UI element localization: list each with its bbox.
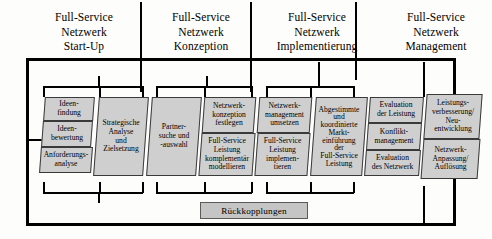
box-line: findung (57, 109, 81, 118)
top-rail-drop-1b (99, 86, 101, 97)
phase-heading-line: Full-Service (28, 10, 140, 25)
phase-heading-line: Netzwerk (146, 25, 256, 40)
diagram-root: Full-Service Netzwerk Start-Up Full-Serv… (0, 0, 492, 239)
process-box-leistung-modellieren[interactable]: Full-Service Leistung komplementär model… (198, 133, 255, 176)
bottom-rail-group-1 (43, 192, 143, 194)
phase-heading-management: Full-Service Netzwerk Management (382, 10, 490, 54)
phase-heading-line: Full-Service (256, 10, 378, 25)
top-rail-drop-3a (266, 86, 268, 97)
box-line: umsetzen (270, 119, 299, 128)
phase-heading-line: Konzeption (146, 39, 256, 54)
process-box-evaluation-netzwerk[interactable]: Evaluation des Netzwerk (364, 150, 421, 176)
box-line: Zielsetzung (103, 145, 138, 154)
phase-heading-line: Full-Service (146, 10, 256, 25)
process-box-anforderungsanalyse[interactable]: Anforderungs- analyse (39, 147, 93, 173)
bottom-rail-rise-1c (142, 182, 144, 193)
phase-heading-line: Netzwerk (382, 25, 490, 40)
bottom-rail-rise-3b (310, 182, 312, 193)
top-rail-drop-3c (353, 86, 355, 97)
process-box-konzeption-festlegen[interactable]: Netzwerk- konzeption festlegen (202, 97, 257, 133)
box-line: -auswahl (160, 141, 187, 150)
frame-top-border (26, 58, 456, 61)
process-box-leistung-implementieren[interactable]: Full-Service Leistung implemen- tieren (254, 133, 310, 176)
box-line: des Netzwerk (372, 163, 414, 172)
phase-heading-line: Netzwerk (28, 25, 140, 40)
phase-separator-2 (250, 2, 252, 92)
top-rail-group-1 (43, 86, 143, 88)
process-box-verbesserung-neuentwicklung[interactable]: Leistungs- verbesserung/ Neu- entwicklun… (423, 94, 482, 139)
top-rail-drop-2b (204, 86, 206, 97)
phase-heading-line: Management (382, 39, 490, 54)
bottom-rail-rise-1a (43, 182, 45, 193)
phase-separator-3 (355, 2, 357, 80)
phase-heading-line: Implementierung (256, 39, 378, 54)
top-rail-drop-3b (310, 86, 312, 97)
top-rail-drop-2c (251, 86, 253, 97)
process-box-strategische-analyse[interactable]: Strategische Analyse und Zielsetzung (93, 97, 149, 176)
phase-heading-line: Start-Up (28, 39, 140, 54)
box-line: Leistung (326, 160, 353, 168)
feedback-bar[interactable]: Rückkopplungen (200, 202, 308, 219)
box-line: der Leistung (377, 110, 415, 119)
top-rail-drop-1a (43, 86, 45, 97)
phase-heading-implementierung: Full-Service Netzwerk Implementierung (256, 10, 378, 54)
phase-heading-line: Full-Service (382, 10, 490, 25)
process-box-konfliktmanagement[interactable]: Konflikt- management (366, 123, 422, 150)
box-line: Auflösung (434, 163, 466, 172)
process-box-ideenfindung[interactable]: Ideen- findung (43, 97, 95, 121)
box-line: tieren (274, 163, 291, 172)
bottom-rail-rise-3c (353, 182, 355, 193)
phase-heading-start-up: Full-Service Netzwerk Start-Up (28, 10, 140, 54)
box-line: modellieren (209, 163, 245, 172)
phase-heading-konzeption: Full-Service Netzwerk Konzeption (146, 10, 256, 54)
feedback-label: Rückkopplungen (221, 206, 287, 216)
process-box-abgestimmte-markteinfuehrung[interactable]: Abgestimmte und koordinierte Markt- einf… (310, 97, 368, 176)
frame-bottom-border (26, 223, 456, 226)
box-line: entwicklung (434, 125, 472, 134)
top-stem-1 (98, 76, 100, 87)
box-line: festlegen (215, 119, 242, 128)
process-box-partnersuche[interactable]: Partner- suche und -auswahl (146, 97, 202, 176)
bottom-rail-rise-2c (251, 182, 253, 193)
process-box-anpassung-aufloesung[interactable]: Netzwerk- Anpassung/ Auflösung (421, 139, 481, 179)
process-box-evaluation-leistung[interactable]: Evaluation der Leistung (368, 97, 424, 123)
top-rail-drop-2a (156, 86, 158, 97)
bottom-rail-rise-2b (204, 182, 206, 193)
box-line: bewertung (51, 134, 83, 143)
box-line: analyse (55, 160, 78, 169)
phase-heading-line: Netzwerk (256, 25, 378, 40)
phase-separator-1 (140, 2, 142, 92)
process-box-management-umsetzen[interactable]: Netzwerk- management umsetzen (257, 97, 313, 133)
bottom-stem-4 (423, 186, 425, 225)
top-rail-drop-1c (142, 86, 144, 97)
box-line: management (375, 137, 414, 146)
top-stem-2 (206, 76, 208, 87)
top-stem-4 (423, 62, 425, 97)
top-stem-3 (318, 62, 320, 87)
bottom-rail-rise-3a (266, 182, 268, 193)
bottom-stem-1 (98, 192, 100, 203)
process-box-ideenbewertung[interactable]: Ideen- bewertung (41, 121, 93, 147)
bottom-rail-rise-2a (156, 182, 158, 193)
